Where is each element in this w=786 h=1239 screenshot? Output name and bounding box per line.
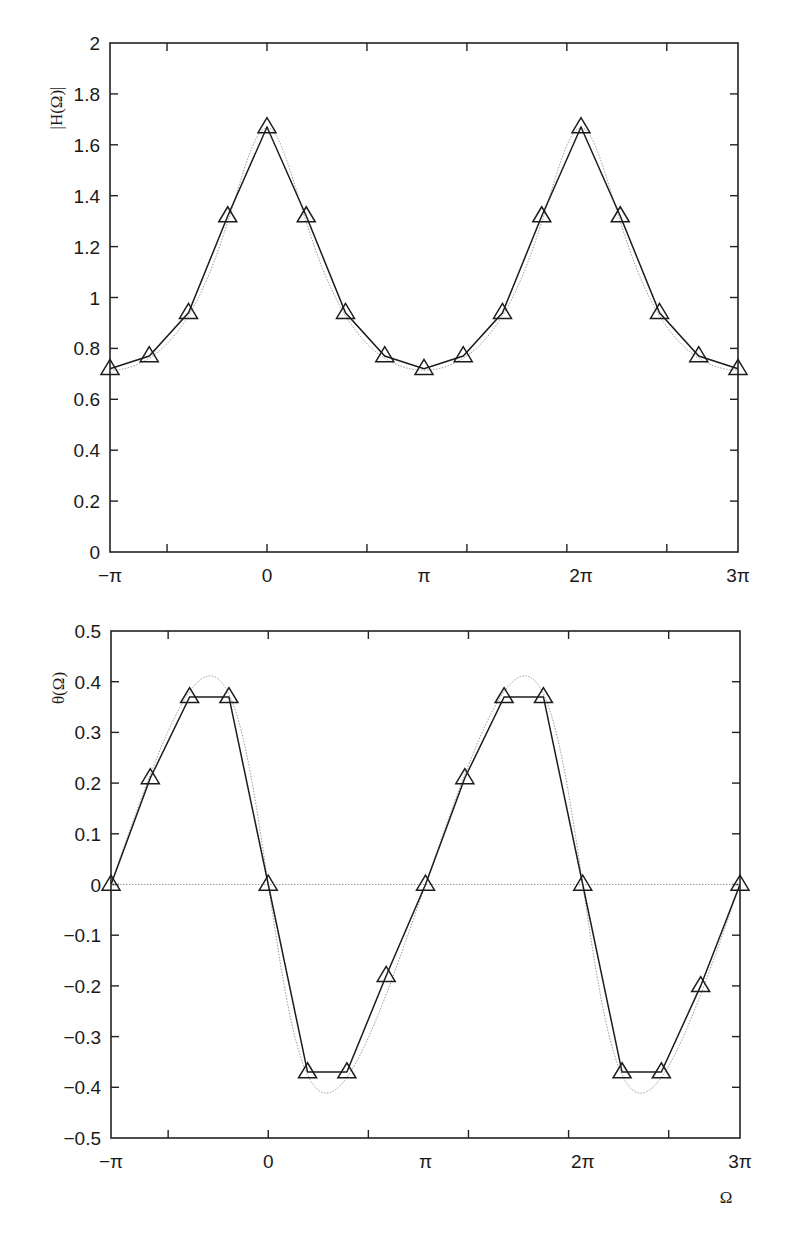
y-tick-label: −0.3 (63, 1027, 101, 1048)
y-tick-label: 0 (90, 875, 101, 896)
plot-canvas: |H(Ω)| 00.20.40.60.811.21.41.61.82−π0π2π… (0, 0, 786, 1239)
triangle-marker-icon (456, 769, 474, 784)
y-tick-label: −0.1 (63, 925, 101, 946)
y-tick-label: 0.2 (75, 773, 101, 794)
x-tick-label: −π (99, 1151, 123, 1172)
y-tick-label: −0.5 (63, 1128, 101, 1149)
magnitude-plot-frame (110, 43, 738, 552)
y-tick-label: 1.8 (74, 84, 100, 105)
y-tick-label: 0.5 (75, 621, 101, 642)
x-tick-label: 3π (726, 565, 750, 586)
x-tick-label: 0 (262, 565, 273, 586)
magnitude-chart: |H(Ω)| 00.20.40.60.811.21.41.61.82−π0π2π… (47, 33, 750, 586)
y-tick-label: 0.4 (75, 672, 102, 693)
magnitude-continuous-curve (110, 128, 738, 370)
y-tick-label: 1.2 (74, 237, 100, 258)
magnitude-sampled-line (110, 127, 738, 369)
x-tick-label: 2π (569, 565, 593, 586)
y-tick-label: 0.2 (74, 491, 100, 512)
x-tick-label: 3π (728, 1151, 752, 1172)
x-tick-label: −π (98, 565, 122, 586)
phase-x-axis-label: Ω (720, 1188, 733, 1207)
y-tick-label: −0.4 (63, 1077, 101, 1098)
x-tick-label: π (419, 1151, 432, 1172)
phase-y-axis-label: θ(Ω) (49, 672, 68, 704)
y-tick-label: 2 (89, 33, 100, 54)
triangle-marker-icon (181, 688, 199, 703)
magnitude-y-axis-label: |H(Ω)| (47, 86, 66, 129)
y-tick-label: 1.6 (74, 135, 100, 156)
figure: |H(Ω)| 00.20.40.60.811.21.41.61.82−π0π2π… (0, 0, 786, 1239)
y-tick-label: 0.6 (74, 389, 100, 410)
y-tick-label: 0 (89, 542, 100, 563)
x-tick-label: 0 (263, 1151, 274, 1172)
phase-chart: θ(Ω) Ω −0.5−0.4−0.3−0.2−0.100.10.20.30.4… (49, 621, 752, 1207)
triangle-marker-icon (141, 769, 159, 784)
y-tick-label: 1 (89, 288, 100, 309)
y-tick-label: 0.4 (74, 440, 101, 461)
y-tick-label: 0.8 (74, 338, 100, 359)
x-tick-label: 2π (571, 1151, 595, 1172)
y-tick-label: 1.4 (74, 186, 101, 207)
y-tick-label: 0.1 (75, 824, 101, 845)
y-tick-label: 0.3 (75, 722, 101, 743)
y-tick-label: −0.2 (63, 976, 101, 997)
x-tick-label: π (417, 565, 430, 586)
